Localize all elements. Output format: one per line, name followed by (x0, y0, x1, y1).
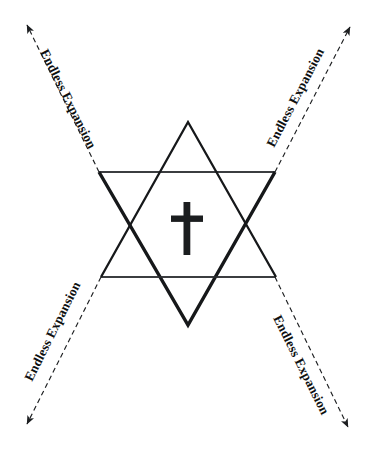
hexagram-diagram: Endless Expansion Endless Expansion Endl… (0, 0, 377, 460)
figure-root: Endless Expansion Endless Expansion Endl… (0, 0, 377, 460)
cross-horizontal-bar (171, 216, 203, 222)
cross-vertical-bar (184, 202, 191, 255)
